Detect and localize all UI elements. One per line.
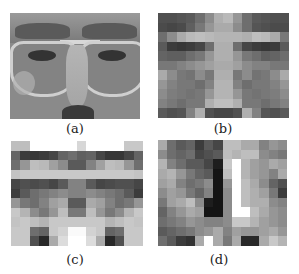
mosaic-cell [261, 23, 270, 33]
mosaic-cell [77, 208, 86, 218]
mosaic-cell [96, 217, 105, 227]
mosaic-cell [124, 170, 133, 180]
mosaic-cell [39, 170, 48, 180]
mosaic-cell [278, 169, 287, 179]
mosaic-cell [252, 13, 261, 23]
mosaic-cell [167, 227, 176, 237]
mosaic-cell [11, 189, 20, 199]
mosaic-cell [30, 141, 39, 151]
mosaic-cell [252, 99, 261, 109]
mosaic-cell [134, 198, 143, 208]
mosaic-cell [278, 140, 287, 150]
mosaic-cell [205, 42, 214, 52]
mosaic-cell [58, 141, 67, 151]
mosaic-cell [252, 89, 261, 99]
mosaic-cell [39, 208, 48, 218]
mosaic-cell [232, 159, 241, 169]
mosaic-cell [11, 170, 20, 180]
mosaic-cell [20, 198, 29, 208]
mosaic-cell [269, 159, 278, 169]
mosaic-cell [233, 61, 242, 71]
mosaic-cell [214, 42, 223, 52]
mosaic-cell [261, 61, 270, 71]
mosaic-cell [186, 51, 195, 61]
mosaic-cell [205, 89, 214, 99]
mosaic-cell [176, 236, 185, 246]
mosaic-cell [158, 61, 167, 71]
mosaic-cell [204, 236, 213, 246]
mosaic-cell [186, 198, 195, 208]
mosaic-cell [39, 236, 48, 246]
mosaic-cell [167, 32, 176, 42]
mosaic-cell [213, 236, 222, 246]
mosaic-cell [49, 208, 58, 218]
nostrils [62, 105, 94, 119]
mosaic-cell [158, 32, 167, 42]
mosaic-cell [77, 236, 86, 246]
mosaic-cell [186, 207, 195, 217]
mosaic-cell [278, 217, 287, 227]
mosaic-cell [270, 23, 279, 33]
mosaic-cell [250, 150, 259, 160]
mosaic-cell [124, 236, 133, 246]
mosaic-cell [269, 150, 278, 160]
mosaic-cell [176, 150, 185, 160]
mosaic-cell [58, 160, 67, 170]
mosaic-cell [86, 208, 95, 218]
mosaic-cell [278, 188, 287, 198]
mosaic-cell [195, 140, 204, 150]
mosaic-cell [205, 70, 214, 80]
mosaic-cell [105, 198, 114, 208]
mosaic-cell [214, 80, 223, 90]
mosaic-cell [49, 198, 58, 208]
mosaic-cell [269, 217, 278, 227]
mosaic-cell [242, 80, 251, 90]
mosaic-cell [68, 227, 77, 237]
mosaic-cell [49, 217, 58, 227]
mosaic-cell [186, 150, 195, 160]
mosaic-cell [278, 236, 287, 246]
mosaic-cell [223, 227, 232, 237]
mosaic-cell [68, 189, 77, 199]
mosaic-cell [158, 169, 167, 179]
mosaic-cell [11, 208, 20, 218]
mosaic-cell [49, 160, 58, 170]
mosaic-cell [195, 80, 204, 90]
mosaic-cell [77, 179, 86, 189]
mosaic-cell [115, 141, 124, 151]
mosaic-cell [252, 80, 261, 90]
mosaic-cell [204, 169, 213, 179]
mosaic-cell [77, 227, 86, 237]
mosaic-cell [105, 151, 114, 161]
mosaic-cell [30, 227, 39, 237]
mosaic-cell [30, 151, 39, 161]
mosaic-cell [115, 170, 124, 180]
mosaic-cell [223, 188, 232, 198]
mosaic-cell [105, 227, 114, 237]
mosaic-cell [223, 108, 232, 118]
mosaic-cell [233, 51, 242, 61]
mosaic-cell [158, 179, 167, 189]
left-eyebrow [15, 23, 70, 39]
mosaic-cell [270, 99, 279, 109]
mosaic-cell [250, 236, 259, 246]
mosaic-cell [186, 217, 195, 227]
mosaic-cell [176, 140, 185, 150]
mosaic-cell [232, 169, 241, 179]
mosaic-cell [39, 160, 48, 170]
mosaic-cell [280, 32, 289, 42]
mosaic-cell [124, 141, 133, 151]
mosaic-cell [205, 23, 214, 33]
mosaic-cell [213, 198, 222, 208]
mosaic-cell [259, 198, 268, 208]
mosaic-cell [213, 159, 222, 169]
mosaic-cell [11, 198, 20, 208]
mosaic-cell [270, 70, 279, 80]
mosaic-cell [167, 80, 176, 90]
mosaic-cell [158, 13, 167, 23]
mosaic-cell [58, 179, 67, 189]
mosaic-cell [261, 70, 270, 80]
mosaic-cell [204, 207, 213, 217]
mosaic-cell [241, 150, 250, 160]
mosaic-cell [86, 141, 95, 151]
